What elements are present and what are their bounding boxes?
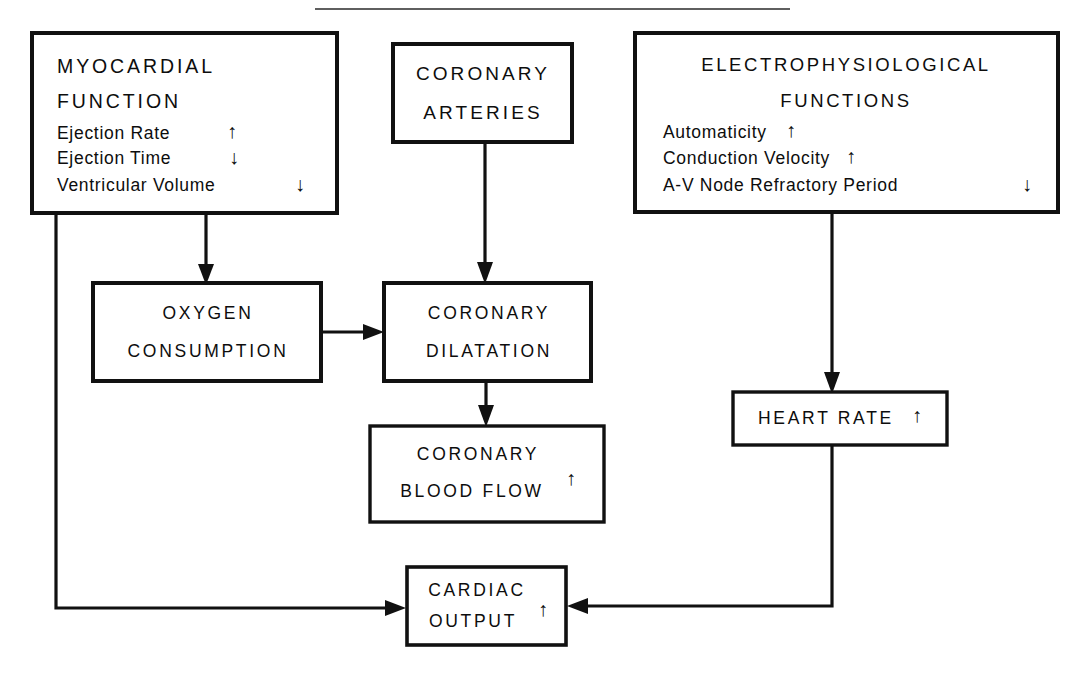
- node-coronary-dilatation[interactable]: CORONARY DILATATION: [384, 283, 591, 381]
- myocardial-item-0-label: Ejection Rate: [57, 123, 170, 143]
- coronary-arteries-box: [393, 44, 572, 142]
- edge-myocardial-to-cardiac-output: [56, 213, 406, 616]
- coronary-arteries-line2: ARTERIES: [423, 102, 542, 123]
- edge-heart-rate-to-cardiac-output: [567, 445, 832, 614]
- coronary-dilatation-line2: DILATATION: [426, 341, 552, 361]
- coronary-blood-flow-change-arrow-icon: ↑: [566, 467, 576, 489]
- myocardial-heading-line1: MYOCARDIAL: [57, 55, 215, 77]
- electrophysiological-item-0-label: Automaticity: [663, 122, 767, 142]
- coronary-dilatation-box: [384, 283, 591, 381]
- coronary-arteries-line1: CORONARY: [416, 63, 550, 84]
- flowchart-diagram: MYOCARDIAL FUNCTION Ejection Rate ↑ Ejec…: [0, 0, 1086, 682]
- edge-myocardial-to-oxygen-consumption: [198, 213, 214, 285]
- edge-electrophysiological-to-heart-rate: [824, 212, 840, 394]
- oxygen-consumption-line1: OXYGEN: [162, 303, 253, 323]
- node-myocardial-function[interactable]: MYOCARDIAL FUNCTION Ejection Rate ↑ Ejec…: [32, 33, 337, 213]
- electrophysiological-heading-line2: FUNCTIONS: [780, 90, 911, 111]
- oxygen-consumption-line2: CONSUMPTION: [128, 341, 289, 361]
- oxygen-consumption-box: [93, 283, 321, 381]
- myocardial-item-1-change-arrow-icon: ↓: [229, 146, 239, 168]
- myocardial-item-2-change-arrow-icon: ↓: [295, 173, 305, 195]
- edge-coronary-arteries-to-coronary-dilatation: [477, 142, 493, 284]
- node-coronary-arteries[interactable]: CORONARY ARTERIES: [393, 44, 572, 142]
- coronary-dilatation-line1: CORONARY: [428, 303, 550, 323]
- electrophysiological-item-0-change-arrow-icon: ↑: [786, 119, 796, 141]
- heart-rate-change-arrow-icon: ↑: [912, 404, 922, 426]
- myocardial-item-1-label: Ejection Time: [57, 148, 171, 168]
- edge-coronary-dilatation-to-coronary-blood-flow: [478, 381, 494, 427]
- myocardial-item-2-label: Ventricular Volume: [57, 175, 216, 195]
- myocardial-heading-line2: FUNCTION: [57, 90, 181, 112]
- node-oxygen-consumption[interactable]: OXYGEN CONSUMPTION: [93, 283, 321, 381]
- myocardial-item-0-change-arrow-icon: ↑: [227, 120, 237, 142]
- cardiac-output-line1: CARDIAC: [428, 580, 526, 600]
- cardiac-output-change-arrow-icon: ↑: [538, 598, 548, 620]
- flowchart-canvas: MYOCARDIAL FUNCTION Ejection Rate ↑ Ejec…: [0, 0, 1086, 682]
- node-coronary-blood-flow[interactable]: CORONARY BLOOD FLOW ↑: [370, 426, 604, 522]
- heart-rate-line1: HEART RATE: [758, 408, 894, 428]
- node-cardiac-output[interactable]: CARDIAC OUTPUT ↑: [407, 567, 566, 645]
- cardiac-output-line2: OUTPUT: [429, 611, 517, 631]
- electrophysiological-heading-line1: ELECTROPHYSIOLOGICAL: [701, 54, 990, 75]
- coronary-blood-flow-line1: CORONARY: [417, 444, 539, 464]
- node-heart-rate[interactable]: HEART RATE ↑: [733, 392, 947, 445]
- electrophysiological-item-2-label: A-V Node Refractory Period: [663, 175, 898, 195]
- node-electrophysiological-functions[interactable]: ELECTROPHYSIOLOGICAL FUNCTIONS Automatic…: [635, 33, 1058, 212]
- electrophysiological-item-2-change-arrow-icon: ↓: [1022, 173, 1032, 195]
- electrophysiological-item-1-change-arrow-icon: ↑: [846, 145, 856, 167]
- edge-oxygen-consumption-to-coronary-dilatation: [321, 324, 384, 340]
- coronary-blood-flow-line2: BLOOD FLOW: [400, 481, 544, 501]
- electrophysiological-item-1-label: Conduction Velocity: [663, 148, 830, 168]
